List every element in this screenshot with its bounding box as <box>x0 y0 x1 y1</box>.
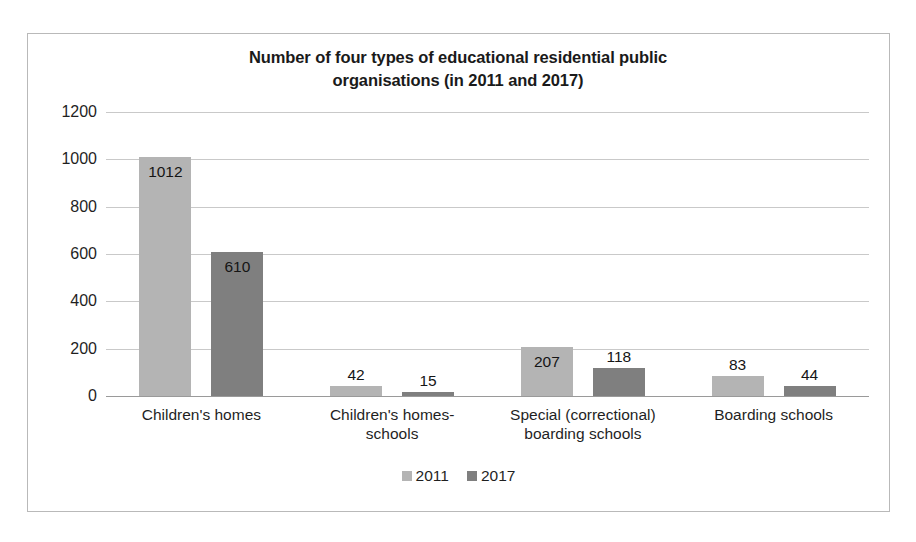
y-axis-tick-label: 200 <box>70 340 97 358</box>
bar-2011-1: 1012 <box>139 157 191 397</box>
y-axis-tick-label: 1200 <box>61 103 97 121</box>
bar-value-label: 42 <box>330 366 382 384</box>
legend-label: 2017 <box>481 467 515 485</box>
bar-2011-4: 83 <box>712 376 764 396</box>
y-axis-tick-label: 600 <box>70 245 97 263</box>
gridline: 800 <box>106 207 869 208</box>
bar-2017-3: 118 <box>593 368 645 396</box>
x-axis-category-label: Boarding schools <box>678 405 869 424</box>
x-axis-category-label-line: Special (correctional) <box>488 405 679 424</box>
x-axis-category-label-line: Boarding schools <box>678 405 869 424</box>
y-axis-tick-label: 800 <box>70 198 97 216</box>
chart-title-line-2: organisations (in 2011 and 2017) <box>108 69 808 92</box>
plot-area: 1200100080060040020001012610Children's h… <box>106 112 869 396</box>
axis-baseline: 0 <box>106 396 869 397</box>
bar-value-label: 207 <box>521 353 573 371</box>
bar-value-label: 83 <box>712 356 764 374</box>
legend-swatch-icon <box>402 471 412 481</box>
gridline: 1200 <box>106 112 869 113</box>
legend-item-2017[interactable]: 2017 <box>467 467 515 485</box>
x-axis-category-label-line: schools <box>297 424 488 443</box>
x-axis-category-label: Children's homes-schools <box>297 405 488 444</box>
x-axis-category-label: Children's homes <box>106 405 297 424</box>
legend-swatch-icon <box>467 471 477 481</box>
x-axis-category-label-line: Children's homes- <box>297 405 488 424</box>
x-axis-category-label-line: Children's homes <box>106 405 297 424</box>
x-axis-category-label: Special (correctional)boarding schools <box>488 405 679 444</box>
bar-value-label: 44 <box>784 366 836 384</box>
x-axis-category-label-line: boarding schools <box>488 424 679 443</box>
bar-2011-2: 42 <box>330 386 382 396</box>
gridline: 1000 <box>106 159 869 160</box>
chart-title-line-1: Number of four types of educational resi… <box>108 46 808 69</box>
bar-2017-4: 44 <box>784 386 836 396</box>
chart-container: Number of four types of educational resi… <box>27 33 890 512</box>
bar-2017-2: 15 <box>402 392 454 396</box>
bar-value-label: 610 <box>211 258 263 276</box>
y-axis-tick-label: 1000 <box>61 150 97 168</box>
chart-page: Number of four types of educational resi… <box>0 0 916 542</box>
y-axis-tick-label: 0 <box>88 387 97 405</box>
bar-2011-3: 207 <box>521 347 573 396</box>
bar-value-label: 118 <box>593 348 645 366</box>
chart-legend: 20112017 <box>28 467 889 485</box>
legend-label: 2011 <box>416 467 449 485</box>
legend-item-2011[interactable]: 2011 <box>402 467 449 485</box>
bar-value-label: 15 <box>402 372 454 390</box>
bar-2017-1: 610 <box>211 252 263 396</box>
chart-title: Number of four types of educational resi… <box>108 46 808 92</box>
bar-value-label: 1012 <box>139 163 191 181</box>
y-axis-tick-label: 400 <box>70 292 97 310</box>
